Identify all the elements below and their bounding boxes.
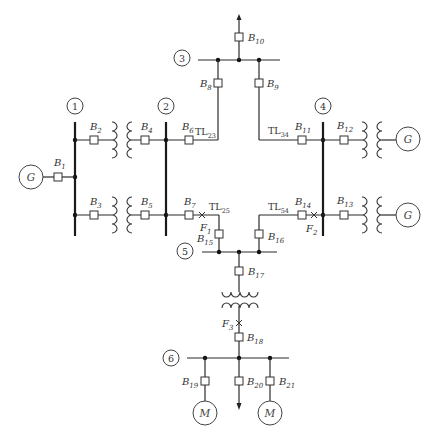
- breaker-icon-b15: [215, 230, 223, 238]
- power-system-diagram: 3 B10 B8 B9 1 G B1 B2: [0, 0, 436, 447]
- transformer-icon: [362, 122, 367, 158]
- breaker-icon-b21: [266, 377, 274, 385]
- breaker-icon-b9: [255, 79, 263, 87]
- breaker-icon-b18: [235, 333, 243, 341]
- transformer-icon: [127, 122, 132, 158]
- bus-4-label: 4: [320, 101, 326, 112]
- bus-1-label: 1: [72, 101, 78, 112]
- bus-1-group: 1 G B1: [19, 98, 83, 236]
- breaker-label-b10: B10: [247, 32, 265, 46]
- breaker-icon-b13: [340, 211, 348, 219]
- bus-3-label: 3: [179, 53, 185, 64]
- load-arrow-icon: [237, 403, 242, 410]
- generator-bus4-upper-group: B12 G: [323, 120, 420, 158]
- bus-5-label: 5: [182, 246, 188, 257]
- breaker-label-b16: B16: [267, 231, 285, 245]
- breaker-icon-b14: [298, 211, 306, 219]
- breaker-icon-b8: [214, 79, 222, 87]
- breaker-label-b13: B13: [336, 195, 354, 209]
- transformer-icon: [222, 303, 258, 308]
- breaker-icon-b20: [235, 377, 243, 385]
- transformer-icon: [112, 122, 117, 158]
- line-label-tl25: TL25: [209, 201, 230, 215]
- breaker-icon-b4: [141, 136, 149, 144]
- transformer-icon: [377, 197, 382, 233]
- breaker-icon-b19: [201, 377, 209, 385]
- bus-2-label: 2: [163, 101, 169, 112]
- breaker-icon-b11: [298, 136, 306, 144]
- breaker-label-b21: B21: [278, 376, 295, 390]
- junction-dot-icon: [257, 250, 261, 254]
- breaker-icon-b6: [185, 136, 193, 144]
- bus-4-group: 4 B11 TL34 B14 TL54 F2 B16: [255, 98, 331, 252]
- breaker-icon-b12: [340, 136, 348, 144]
- generator-bus4-lower-group: B13 G: [323, 195, 420, 233]
- breaker-label-b20: B20: [246, 376, 264, 390]
- breaker-label-b1: B1: [53, 157, 66, 171]
- breaker-icon-b10: [235, 33, 243, 41]
- transformer-icon: [362, 197, 367, 233]
- transformer-1-2-lower: B3 B5: [75, 196, 166, 233]
- breaker-icon-b17: [235, 267, 243, 275]
- motor-label-left: M: [199, 407, 211, 419]
- motor-label-right: M: [264, 407, 276, 419]
- transformer-5-6: F3 B18: [221, 292, 264, 358]
- generator-label-bus4-upper: G: [404, 133, 412, 145]
- breaker-label-b4: B4: [140, 121, 153, 135]
- breaker-label-b6: B6: [181, 121, 194, 135]
- breaker-label-b11: B11: [294, 121, 311, 135]
- fault-label-f3: F3: [221, 318, 234, 332]
- fault-label-f2: F2: [305, 223, 318, 237]
- breaker-label-b12: B12: [336, 120, 354, 134]
- transformer-icon: [377, 122, 382, 158]
- breaker-icon-b3: [90, 211, 98, 219]
- line-label-tl34: TL34: [268, 125, 289, 139]
- breaker-icon-b5: [141, 211, 149, 219]
- transformer-1-2-upper: B2 B4: [75, 121, 166, 158]
- bus-3-group: 3 B10 B8 B9: [174, 14, 280, 140]
- breaker-label-b19: B19: [181, 376, 199, 390]
- bus-5-group: 5 B17: [177, 243, 277, 292]
- breaker-label-b3: B3: [89, 196, 102, 210]
- breaker-label-b17: B17: [247, 266, 265, 280]
- bus-2-group: 2 B6 TL23 B7 TL25 F1 B15: [158, 98, 230, 252]
- breaker-label-b5: B5: [140, 196, 153, 210]
- line-label-tl23: TL23: [195, 126, 216, 140]
- breaker-icon-b7: [185, 211, 193, 219]
- breaker-label-b18: B18: [246, 332, 264, 346]
- load-arrow-icon: [237, 14, 242, 20]
- transformer-icon: [112, 197, 117, 233]
- breaker-label-b2: B2: [89, 121, 102, 135]
- breaker-icon-b16: [255, 230, 263, 238]
- transformer-icon: [127, 197, 132, 233]
- line-label-tl54: TL54: [268, 201, 289, 215]
- breaker-label-b14: B14: [294, 196, 311, 210]
- junction-dot-icon: [217, 250, 221, 254]
- breaker-label-b7: B7: [183, 196, 196, 210]
- generator-label-bus1: G: [27, 171, 35, 183]
- bus-6-group: 6 B19 M B20 B21 M: [163, 350, 295, 425]
- breaker-label-b9: B9: [266, 78, 279, 92]
- bus-6-label: 6: [168, 353, 174, 364]
- breaker-icon-b2: [90, 136, 98, 144]
- transformer-icon: [222, 292, 258, 297]
- generator-label-bus4-lower: G: [404, 209, 412, 221]
- breaker-icon-b1: [54, 173, 62, 181]
- breaker-label-b8: B8: [199, 78, 212, 92]
